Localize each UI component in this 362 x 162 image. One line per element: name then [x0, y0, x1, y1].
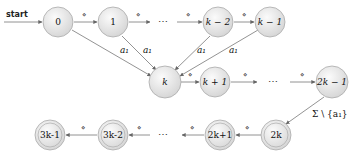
svg-text:a₁: a₁: [143, 45, 152, 55]
state-2k: 2k: [261, 120, 291, 150]
state-2k-plus-1: 2k+1: [205, 120, 235, 150]
svg-text:⋯: ⋯: [158, 129, 168, 140]
state-2k-minus-1: 2k − 1: [316, 66, 348, 98]
svg-text:⋄: ⋄: [243, 71, 247, 79]
svg-text:0: 0: [55, 17, 61, 27]
svg-text:a₁: a₁: [120, 45, 129, 55]
svg-text:⋄: ⋄: [82, 11, 86, 19]
svg-text:⋄: ⋄: [300, 71, 304, 79]
svg-text:k − 1: k − 1: [258, 17, 282, 27]
svg-text:Σ \ {a₁}: Σ \ {a₁}: [312, 109, 348, 119]
svg-text:2k − 1: 2k − 1: [316, 77, 347, 87]
svg-text:a₁: a₁: [197, 45, 206, 55]
svg-text:⋯: ⋯: [158, 16, 168, 27]
edge-sigma: Σ \ {a₁}: [286, 97, 348, 124]
svg-text:1: 1: [110, 17, 116, 27]
svg-text:k: k: [162, 77, 167, 87]
state-1: 1: [98, 7, 128, 37]
svg-text:k − 2: k − 2: [206, 17, 231, 27]
start-arrow: start: [4, 10, 42, 22]
svg-text:⋄: ⋄: [190, 124, 194, 132]
state-3k-2: 3k-2: [98, 120, 128, 150]
svg-text:⋯: ⋯: [268, 76, 278, 87]
svg-text:⋄: ⋄: [186, 11, 190, 19]
svg-text:3k-2: 3k-2: [103, 130, 123, 140]
state-0: 0: [43, 7, 73, 37]
svg-text:⋄: ⋄: [242, 11, 246, 19]
svg-text:⋄: ⋄: [245, 124, 249, 132]
state-k-minus-2: k − 2: [203, 7, 233, 37]
svg-text:k + 1: k + 1: [203, 77, 227, 87]
svg-text:a₁: a₁: [229, 45, 238, 55]
svg-text:⋄: ⋄: [136, 11, 140, 19]
svg-text:⋄: ⋄: [137, 124, 141, 132]
svg-text:⋄: ⋄: [81, 124, 85, 132]
state-k-plus-1: k + 1: [200, 67, 230, 97]
state-3k-1: 3k-1: [35, 120, 65, 150]
svg-text:start: start: [6, 10, 28, 19]
svg-text:⋄: ⋄: [188, 71, 192, 79]
svg-text:2k: 2k: [270, 130, 282, 140]
svg-text:3k-1: 3k-1: [40, 130, 60, 140]
state-k-minus-1: k − 1: [255, 7, 285, 37]
state-k: k: [149, 66, 181, 98]
svg-text:2k+1: 2k+1: [208, 130, 232, 140]
automaton-diagram: start ⋄ ⋄ ⋯ ⋄ ⋄ a₁ a₁ a₁ a₁ ⋄ ⋄ ⋯ ⋄ Σ \ …: [0, 0, 362, 162]
